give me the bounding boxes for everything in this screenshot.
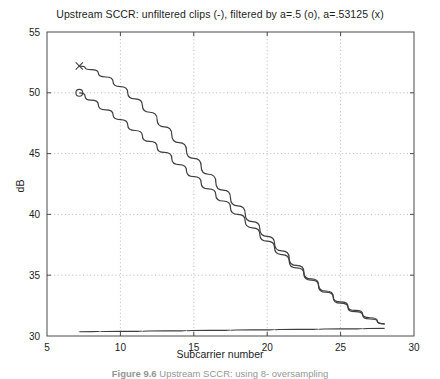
figure-number: Figure 9.6: [112, 368, 157, 379]
figure-caption-text: Upstream SCCR: using 8- oversampling: [159, 368, 328, 379]
svg-text:35: 35: [29, 270, 41, 281]
y-axis-label: dB: [14, 156, 26, 216]
x-axis-label: Subcarrier number: [0, 348, 440, 360]
svg-text:45: 45: [29, 148, 41, 159]
svg-text:40: 40: [29, 209, 41, 220]
svg-text:55: 55: [29, 27, 41, 38]
figure-caption: Figure 9.6 Upstream SCCR: using 8- overs…: [0, 368, 440, 379]
svg-text:50: 50: [29, 87, 41, 98]
svg-text:30: 30: [29, 331, 41, 342]
